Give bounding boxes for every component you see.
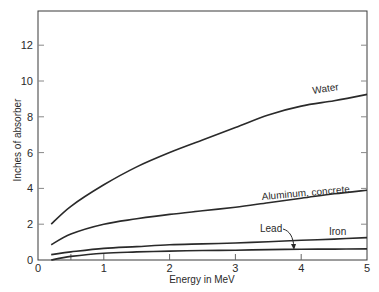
y-tick-label: 6 [27, 147, 33, 159]
curve-water [51, 94, 367, 224]
y-tick-label: 12 [21, 39, 33, 51]
curve-label-lead: Lead [260, 223, 282, 234]
y-tick-label: 4 [27, 182, 33, 194]
x-tick-label: 4 [298, 262, 304, 274]
y-tick-label: 8 [27, 111, 33, 123]
curve-lead [51, 249, 367, 260]
curves [51, 94, 367, 260]
y-axis-ticks: 024681012 [21, 39, 367, 266]
curve-label-iron: Iron [329, 226, 346, 237]
curve-label-water: Water [312, 81, 340, 96]
absorber-thickness-chart: 024681012 012345 Energy in MeV Inches of… [0, 0, 379, 292]
y-tick-label: 10 [21, 75, 33, 87]
curve-iron [51, 238, 367, 255]
y-tick-label: 0 [27, 254, 33, 266]
y-tick-label: 2 [27, 218, 33, 230]
x-tick-label: 2 [167, 262, 173, 274]
x-tick-label: 3 [232, 262, 238, 274]
y-axis-label: Inches of absorber [12, 98, 23, 181]
x-tick-label: 1 [101, 262, 107, 274]
x-axis-ticks: 012345 [35, 254, 370, 274]
x-tick-label: 0 [35, 262, 41, 274]
curve-aluminum-concrete [51, 190, 367, 245]
x-axis-label: Energy in MeV [169, 274, 235, 285]
curve-label-aluminum: Aluminum, concrete [261, 183, 350, 202]
plot-frame [38, 11, 367, 260]
x-tick-label: 5 [364, 262, 370, 274]
